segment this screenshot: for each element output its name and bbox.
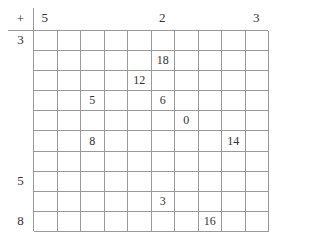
grid-cell[interactable]	[105, 152, 129, 172]
grid-cell[interactable]	[222, 152, 246, 172]
grid-cell[interactable]	[199, 172, 223, 192]
grid-cell[interactable]: 0	[175, 111, 199, 131]
grid-cell[interactable]	[128, 51, 152, 71]
grid-cell[interactable]	[34, 91, 58, 111]
grid-cell[interactable]	[175, 192, 199, 212]
grid-cell[interactable]	[152, 131, 176, 151]
grid-cell[interactable]	[81, 152, 105, 172]
grid-cell[interactable]	[199, 71, 223, 91]
grid-cell[interactable]	[128, 91, 152, 111]
grid-cell[interactable]	[105, 51, 129, 71]
grid-cell[interactable]	[105, 212, 129, 232]
grid-cell[interactable]	[199, 91, 223, 111]
grid-cell[interactable]	[246, 111, 270, 131]
grid-cell[interactable]	[246, 71, 270, 91]
grid-cell[interactable]	[246, 131, 270, 151]
grid-cell[interactable]: 3	[152, 192, 176, 212]
grid-cell[interactable]	[81, 31, 105, 51]
grid-cell[interactable]	[175, 152, 199, 172]
grid-cell[interactable]	[34, 111, 58, 131]
grid-cell[interactable]	[105, 31, 129, 51]
grid-cell[interactable]	[81, 51, 105, 71]
grid-cell[interactable]	[152, 172, 176, 192]
grid-cell[interactable]	[222, 192, 246, 212]
grid-cell[interactable]	[222, 71, 246, 91]
grid-cell[interactable]	[58, 131, 82, 151]
grid-cell[interactable]	[34, 131, 58, 151]
grid-cell[interactable]	[246, 212, 270, 232]
grid-cell[interactable]	[128, 192, 152, 212]
grid-cell[interactable]	[34, 51, 58, 71]
grid-cell[interactable]	[152, 31, 176, 51]
grid-cell[interactable]	[58, 152, 82, 172]
grid-cell[interactable]	[222, 111, 246, 131]
grid-cell[interactable]	[175, 172, 199, 192]
grid-cell[interactable]: 18	[152, 51, 176, 71]
grid-cell[interactable]	[222, 51, 246, 71]
grid-cell[interactable]	[105, 111, 129, 131]
grid-cell[interactable]	[81, 192, 105, 212]
grid-cell[interactable]	[105, 172, 129, 192]
grid-cell[interactable]	[81, 111, 105, 131]
grid-cell[interactable]	[199, 51, 223, 71]
grid-cell[interactable]	[58, 192, 82, 212]
grid-cell[interactable]	[105, 192, 129, 212]
grid-cell[interactable]	[246, 31, 270, 51]
grid-cell[interactable]	[246, 91, 270, 111]
grid-cell[interactable]: 6	[152, 91, 176, 111]
grid-cell[interactable]: 5	[81, 91, 105, 111]
grid-cell[interactable]	[246, 192, 270, 212]
grid-cell[interactable]	[199, 152, 223, 172]
grid-cell[interactable]	[199, 192, 223, 212]
grid-cell[interactable]	[58, 212, 82, 232]
grid-cell[interactable]: 16	[199, 212, 223, 232]
grid-cell[interactable]	[175, 131, 199, 151]
grid-cell[interactable]	[175, 31, 199, 51]
grid-cell[interactable]	[199, 131, 223, 151]
grid-cell[interactable]	[175, 91, 199, 111]
grid-cell[interactable]	[246, 51, 270, 71]
grid-cell[interactable]	[81, 172, 105, 192]
grid-cell[interactable]: 14	[222, 131, 246, 151]
grid-cell[interactable]	[128, 172, 152, 192]
grid-cell[interactable]	[34, 192, 58, 212]
grid-cell[interactable]	[175, 51, 199, 71]
grid-cell[interactable]	[152, 152, 176, 172]
grid-cell[interactable]: 8	[81, 131, 105, 151]
grid-cell[interactable]	[199, 31, 223, 51]
grid-cell[interactable]	[58, 51, 82, 71]
grid-cell[interactable]	[81, 71, 105, 91]
grid-cell[interactable]	[105, 71, 129, 91]
grid-cell[interactable]	[58, 91, 82, 111]
grid-cell[interactable]	[128, 111, 152, 131]
grid-cell[interactable]	[152, 71, 176, 91]
grid-cell[interactable]	[222, 31, 246, 51]
grid-cell[interactable]: 12	[128, 71, 152, 91]
grid-cell[interactable]	[34, 172, 58, 192]
grid-cell[interactable]	[152, 212, 176, 232]
grid-cell[interactable]	[175, 71, 199, 91]
grid-cell[interactable]	[105, 91, 129, 111]
grid-cell[interactable]	[81, 212, 105, 232]
grid-cell[interactable]	[128, 152, 152, 172]
grid-cell[interactable]	[34, 152, 58, 172]
grid-cell[interactable]	[105, 131, 129, 151]
grid-cell[interactable]	[58, 172, 82, 192]
grid-cell[interactable]	[58, 31, 82, 51]
grid-cell[interactable]	[58, 71, 82, 91]
grid-cell[interactable]	[246, 152, 270, 172]
grid-cell[interactable]	[175, 212, 199, 232]
grid-cell[interactable]	[246, 172, 270, 192]
grid-cell[interactable]	[58, 111, 82, 131]
grid-cell[interactable]	[128, 131, 152, 151]
grid-cell[interactable]	[222, 91, 246, 111]
grid-cell[interactable]	[34, 71, 58, 91]
grid-cell[interactable]	[128, 31, 152, 51]
grid-cell[interactable]	[34, 212, 58, 232]
grid-cell[interactable]	[152, 111, 176, 131]
grid-cell[interactable]	[128, 212, 152, 232]
grid-cell[interactable]	[34, 31, 58, 51]
grid-cell[interactable]	[199, 111, 223, 131]
grid-cell[interactable]	[222, 212, 246, 232]
grid-cell[interactable]	[222, 172, 246, 192]
